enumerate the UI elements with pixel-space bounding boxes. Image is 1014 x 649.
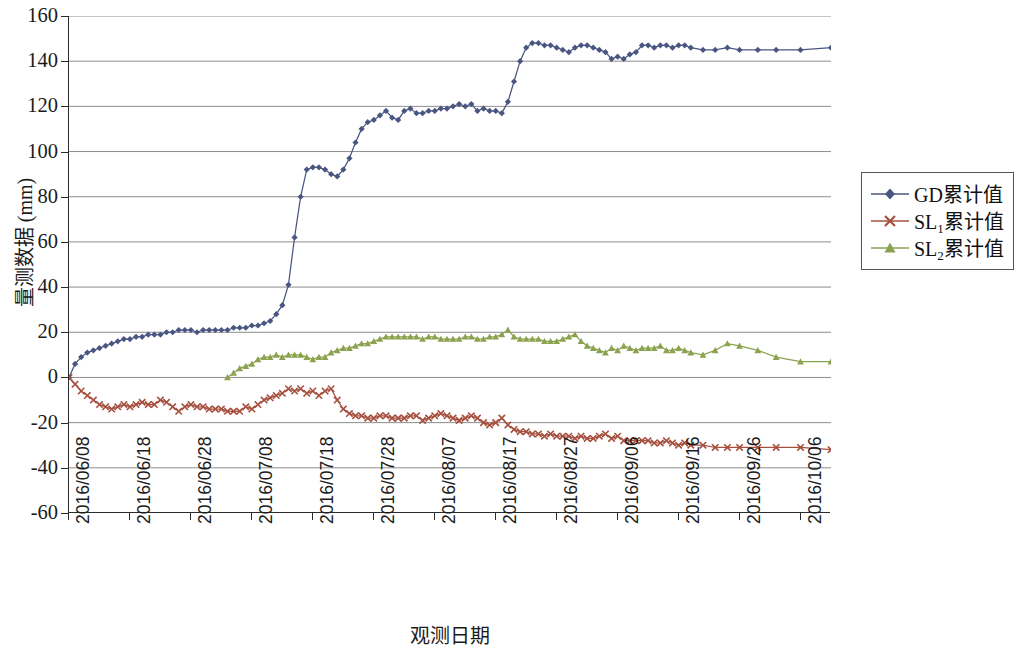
legend-marker-triangle-icon xyxy=(869,238,911,258)
x-axis-title: 观测日期 xyxy=(0,620,900,649)
x-axis-tick-label: 2016/07/28 xyxy=(380,436,398,524)
x-axis-tick-mark xyxy=(251,513,252,520)
legend-label-gd: GD累计值 xyxy=(911,179,1003,208)
y-axis-tick-label: -40 xyxy=(0,457,58,478)
x-axis-tick-label: 2016/09/06 xyxy=(624,436,642,524)
x-axis-tick-label: 2016/06/18 xyxy=(136,436,154,524)
y-axis-tick-mark xyxy=(61,377,68,378)
y-axis-tick-mark xyxy=(61,106,68,107)
y-axis-tick-label: 80 xyxy=(0,186,58,207)
chart-legend: GD累计值 SL1累计值 SL2累计值 xyxy=(861,172,1014,270)
x-axis-tick-label: 2016/08/27 xyxy=(563,436,581,524)
y-axis-tick-label: 140 xyxy=(0,50,58,71)
y-axis-tick-mark xyxy=(61,468,68,469)
x-axis-tick-mark xyxy=(373,513,374,520)
legend-marker-diamond-icon xyxy=(869,184,911,204)
legend-item-sl1[interactable]: SL1累计值 xyxy=(869,207,1004,234)
x-axis-tick-label: 2016/07/08 xyxy=(258,436,276,524)
legend-label-sl2: SL2累计值 xyxy=(911,233,1004,262)
x-axis-tick-mark xyxy=(68,513,69,520)
x-axis-tick-mark xyxy=(434,513,435,520)
y-axis-tick-mark xyxy=(61,61,68,62)
x-axis-tick-mark xyxy=(312,513,313,520)
y-axis-tick-label: 60 xyxy=(0,231,58,252)
y-axis-tick-mark xyxy=(61,152,68,153)
y-axis-tick-label: -60 xyxy=(0,502,58,523)
x-axis-tick-label: 2016/10/06 xyxy=(807,436,825,524)
x-axis-tick-mark xyxy=(190,513,191,520)
x-axis-tick-label: 2016/08/17 xyxy=(502,436,520,524)
legend-item-sl2[interactable]: SL2累计值 xyxy=(869,234,1004,261)
x-axis-tick-label: 2016/07/18 xyxy=(319,436,337,524)
legend-item-gd[interactable]: GD累计值 xyxy=(869,180,1004,207)
y-axis-tick-mark xyxy=(61,423,68,424)
y-axis-tick-label: 0 xyxy=(0,366,58,387)
legend-label-sl1: SL1累计值 xyxy=(911,206,1004,235)
y-axis-tick-mark xyxy=(61,242,68,243)
y-axis-tick-label: 100 xyxy=(0,141,58,162)
x-axis-tick-mark xyxy=(129,513,130,520)
y-axis-tick-label: 160 xyxy=(0,5,58,26)
x-axis-tick-mark xyxy=(617,513,618,520)
x-axis-tick-label: 2016/09/26 xyxy=(746,436,764,524)
y-axis-tick-label: 120 xyxy=(0,95,58,116)
legend-marker-x-icon xyxy=(869,211,911,231)
y-axis-tick-label: -20 xyxy=(0,412,58,433)
y-axis-tick-label: 40 xyxy=(0,276,58,297)
y-axis-tick-mark xyxy=(61,332,68,333)
x-axis-tick-label: 2016/08/07 xyxy=(441,436,459,524)
x-axis-tick-mark xyxy=(678,513,679,520)
y-axis-tick-label: 20 xyxy=(0,321,58,342)
x-axis-tick-mark xyxy=(739,513,740,520)
x-axis-tick-mark xyxy=(556,513,557,520)
y-axis-tick-mark xyxy=(61,513,68,514)
y-axis-tick-mark xyxy=(61,287,68,288)
x-axis-tick-label: 2016/06/28 xyxy=(197,436,215,524)
x-axis-tick-mark xyxy=(800,513,801,520)
x-axis-tick-label: 2016/09/16 xyxy=(685,436,703,524)
y-axis-tick-mark xyxy=(61,16,68,17)
y-axis-tick-mark xyxy=(61,197,68,198)
x-axis-tick-mark xyxy=(495,513,496,520)
x-axis-tick-label: 2016/06/08 xyxy=(75,436,93,524)
